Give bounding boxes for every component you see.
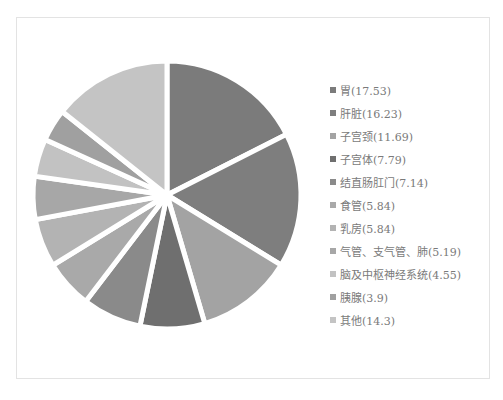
legend-item: 气管、支气管、肺(5.19) [330, 239, 490, 262]
legend-item: 食管(5.84) [330, 193, 490, 216]
legend-swatch-icon [330, 87, 336, 93]
legend-item: 其他(14.3) [330, 308, 490, 331]
legend-item: 结直肠肛门(7.14) [330, 170, 490, 193]
legend-label: 胰腺(3.9) [340, 289, 388, 305]
legend-label: 子宫颈(11.69) [340, 128, 413, 144]
legend-item: 子宫体(7.79) [330, 147, 490, 170]
legend-item: 乳房(5.84) [330, 216, 490, 239]
legend-label: 食管(5.84) [340, 197, 395, 213]
legend-swatch-icon [330, 156, 336, 162]
legend-swatch-icon [330, 225, 336, 231]
legend-item: 肝脏(16.23) [330, 101, 490, 124]
legend-label: 子宫体(7.79) [340, 151, 406, 167]
legend-swatch-icon [330, 110, 336, 116]
legend-item: 胰腺(3.9) [330, 285, 490, 308]
legend-label: 其他(14.3) [340, 312, 395, 328]
legend-label: 脑及中枢神经系统(4.55) [340, 266, 461, 282]
legend-swatch-icon [330, 202, 336, 208]
legend-item: 胃(17.53) [330, 78, 490, 101]
legend-label: 结直肠肛门(7.14) [340, 174, 428, 190]
legend-swatch-icon [330, 248, 336, 254]
legend-label: 乳房(5.84) [340, 220, 395, 236]
legend-item: 脑及中枢神经系统(4.55) [330, 262, 490, 285]
legend-label: 胃(17.53) [340, 82, 391, 98]
legend-swatch-icon [330, 179, 336, 185]
legend-label: 肝脏(16.23) [340, 105, 402, 121]
legend-item: 子宫颈(11.69) [330, 124, 490, 147]
chart-legend: 胃(17.53) 肝脏(16.23) 子宫颈(11.69) 子宫体(7.79) … [330, 78, 490, 331]
legend-swatch-icon [330, 271, 336, 277]
legend-label: 气管、支气管、肺(5.19) [340, 243, 461, 259]
legend-swatch-icon [330, 133, 336, 139]
legend-swatch-icon [330, 317, 336, 323]
legend-swatch-icon [330, 294, 336, 300]
